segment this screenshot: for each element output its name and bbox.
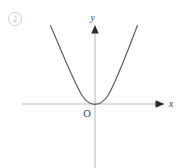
- y-axis-arrow-icon: [91, 25, 98, 34]
- y-axis-label: y: [89, 13, 95, 23]
- figure-number-badge: 2: [9, 13, 22, 26]
- parabola-curve: [51, 26, 138, 105]
- x-axis-label: x: [168, 99, 174, 109]
- x-axis-arrow-icon: [156, 100, 165, 107]
- badge-number-label: 2: [13, 15, 17, 24]
- coordinate-plane-diagram: y x O 2: [0, 0, 181, 168]
- origin-label: O: [83, 108, 91, 119]
- parabola-figure: y x O 2: [0, 0, 181, 168]
